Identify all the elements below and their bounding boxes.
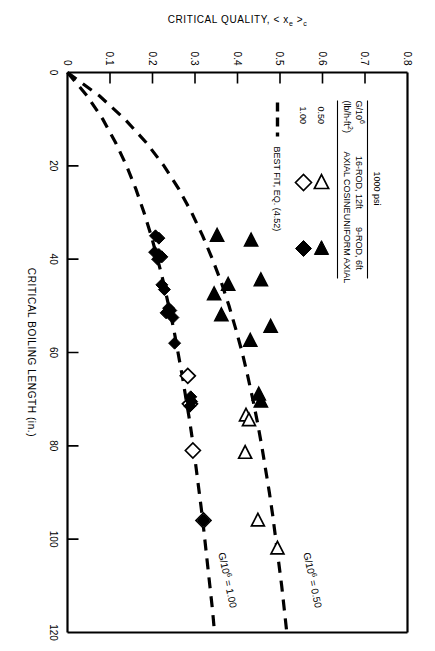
x-axis-title: CRITICAL BOILING LENGTH (in.) (25, 267, 36, 436)
y-tick-label-0.6: 0.6 (316, 51, 327, 65)
curve-label-lower-group: G/106 = 1.00 (216, 551, 240, 609)
legend-col-header-cosine: 16-ROD, 12ft (353, 155, 363, 209)
y-tick-label-0.4: 0.4 (231, 51, 242, 65)
legend-row-0-label: 0.50 (315, 106, 325, 124)
y-tick-label-0.2: 0.2 (146, 51, 157, 65)
legend-col-header-uniform: 9-ROD, 6ft (353, 226, 363, 270)
rotated-figure-wrapper: 020406080100120 00.10.20.30.40.50.60.70.… (0, 0, 435, 651)
curve-label-upper-main: G/10 (301, 551, 316, 575)
best-fit-curves (67, 72, 286, 632)
legend-row-0-cosine-marker (314, 174, 328, 188)
legend-marker-r0-c0 (314, 174, 328, 188)
y-axis-title: CRITICAL QUALITY, < xe >c (167, 13, 307, 26)
fit-curve-1 (67, 72, 214, 632)
x-tick-label-100: 100 (47, 530, 58, 547)
x-tick-label-60: 60 (47, 346, 58, 358)
y-tick-label-0: 0 (61, 59, 72, 65)
y-axis-ticks: 00.10.20.30.40.50.60.70.8 (61, 51, 412, 83)
y-axis-title-tail: > (293, 13, 303, 24)
y-tick-label-0.1: 0.1 (104, 51, 115, 65)
y-axis-title-main: CRITICAL QUALITY, < x (167, 13, 288, 24)
legend-row-1-uniform-marker (295, 240, 311, 256)
legend-best-fit-label: BEST FIT, EQ. (4.52) (271, 146, 281, 231)
legend-row-header-units-exp: 2 (346, 126, 353, 130)
legend-row-0-uniform-marker (314, 240, 328, 254)
legend-col-subheader-uniform: UNIFORM AXIAL (341, 213, 351, 283)
curve-label-upper: G/106 = 0.50 (301, 551, 325, 609)
data-point-s0-12 (238, 445, 251, 458)
data-point-markers (148, 228, 283, 553)
legend-row-header-units-close: ) (341, 129, 351, 132)
x-tick-label-80: 80 (47, 440, 58, 452)
x-tick-label-20: 20 (47, 160, 58, 172)
y-axis-title-sub-e: e (288, 19, 293, 26)
curve-label-upper-tail: = 0.50 (306, 576, 323, 609)
svg-text:CRITICAL QUALITY, < xe >c: CRITICAL QUALITY, < xe >c (167, 13, 307, 26)
y-axis-title-sub-c: c (303, 19, 307, 26)
legend-marker-r0-c1 (314, 240, 328, 254)
legend-row-1-label: 1.00 (297, 106, 307, 124)
curve-label-upper-group: G/106 = 0.50 (301, 551, 325, 609)
x-tick-label-0: 0 (47, 69, 58, 75)
data-point-s0-14 (270, 541, 283, 554)
legend-row-header-line2: (lb/h-ft2) (341, 100, 353, 132)
y-tick-label-0.7: 0.7 (359, 51, 370, 65)
y-tick-label-0.5: 0.5 (274, 51, 285, 65)
x-tick-label-120: 120 (47, 624, 58, 641)
data-point-s0-13 (251, 513, 264, 526)
curve-label-lower: G/106 = 1.00 (216, 551, 240, 609)
legend-title: 1000 psi (371, 171, 381, 205)
legend-row-1-cosine-marker (295, 174, 311, 190)
y-tick-label-0.8: 0.8 (401, 51, 412, 65)
y-tick-label-0.3: 0.3 (189, 51, 200, 65)
legend-row-header-g: G/10 (353, 100, 363, 120)
curve-label-lower-tail: = 1.00 (221, 576, 238, 609)
x-axis-ticks: 020406080100120 (47, 69, 78, 641)
chart-svg: 020406080100120 00.10.20.30.40.50.60.70.… (0, 0, 435, 651)
legend-marker-r1-c1 (295, 240, 311, 256)
legend-row-header-exp: 6 (358, 120, 365, 124)
curve-label-lower-main: G/10 (216, 551, 231, 575)
legend-marker-r1-c0 (295, 174, 311, 190)
legend-row-header-units: (lb/h-ft (341, 100, 351, 126)
data-point-s3-12 (168, 337, 180, 349)
legend-row-header-line1: G/106 (353, 100, 365, 124)
legend-col-subheader-cosine: AXIAL COSINE (341, 151, 351, 213)
x-tick-label-40: 40 (47, 253, 58, 265)
legend: 1000 psi 16-ROD, 12ft 9-ROD, 6ft AXIAL C… (271, 100, 381, 283)
chart-figure: 020406080100120 00.10.20.30.40.50.60.70.… (0, 0, 435, 651)
data-point-s2-2 (185, 443, 200, 458)
